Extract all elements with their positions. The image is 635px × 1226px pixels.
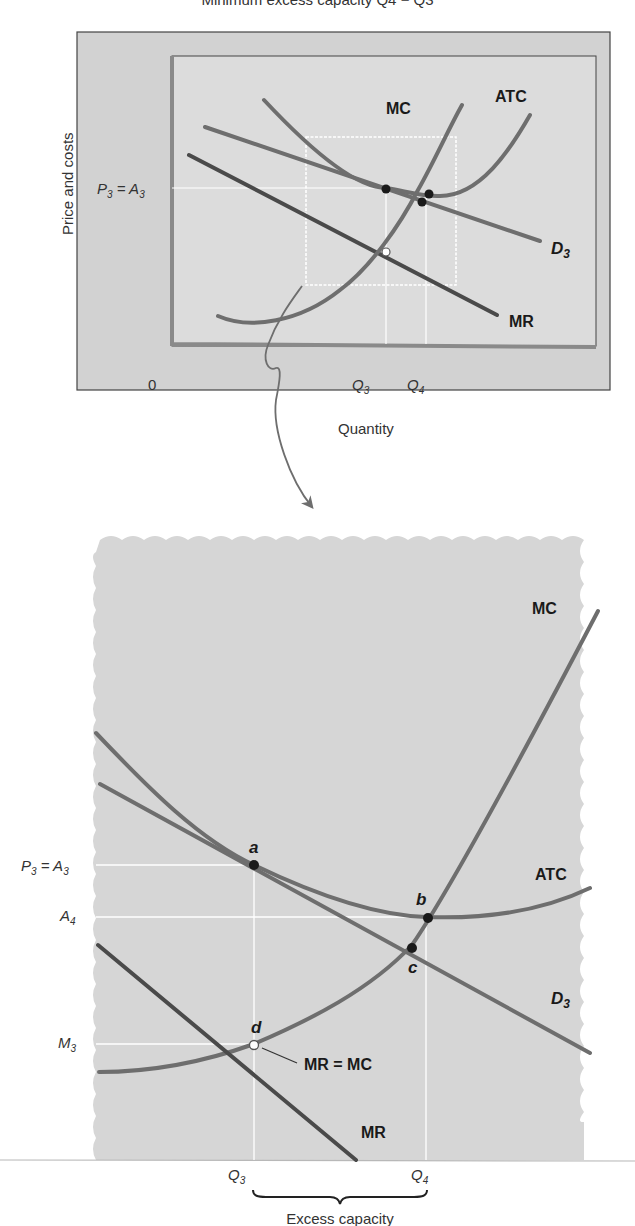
label-mr-equals-mc: MR = MC (304, 1056, 372, 1073)
xtick-q3: Q3 (228, 1166, 246, 1186)
top-xlabel: Quantity (338, 420, 394, 437)
top-label-mc: MC (386, 100, 411, 117)
top-label-mr: MR (509, 313, 534, 330)
point-d (250, 1041, 259, 1050)
bottom-chart: a b c d MC ATC D3 MR MR = MC P3 = A3 A4 … (0, 536, 635, 1226)
label-mc: MC (532, 600, 557, 617)
ytick-m3: M3 (58, 1034, 77, 1054)
top-plot-area (172, 56, 596, 346)
top-ylabel: Price and costs (59, 132, 76, 235)
top-origin-label: 0 (148, 376, 156, 393)
point-label-b: b (416, 890, 426, 909)
point-label-d: d (251, 1018, 262, 1037)
point-label-c: c (408, 958, 418, 977)
excess-capacity-bracket (253, 1190, 427, 1204)
point-label-a: a (249, 838, 258, 857)
xtick-q4: Q4 (411, 1166, 429, 1186)
top-point-d (382, 248, 390, 256)
top-point-b (425, 190, 434, 199)
point-c (407, 943, 417, 953)
top-point-c (418, 198, 427, 207)
ytick-a4: A4 (59, 907, 76, 927)
top-label-atc: ATC (495, 88, 527, 105)
figure-canvas: MC ATC D3 MR P3 = A3 0 Q3 Q4 Quantity Pr… (0, 0, 635, 1226)
excess-capacity-label: Excess capacity (286, 1210, 394, 1226)
label-atc: ATC (535, 866, 567, 883)
ytick-p3a3: P3 = A3 (21, 857, 69, 877)
bottom-baseline (0, 1160, 635, 1161)
label-mr: MR (361, 1124, 386, 1141)
top-chart: MC ATC D3 MR P3 = A3 0 Q3 Q4 Quantity Pr… (59, 32, 610, 437)
top-point-a (382, 185, 391, 194)
point-b (423, 913, 433, 923)
point-a (249, 860, 259, 870)
